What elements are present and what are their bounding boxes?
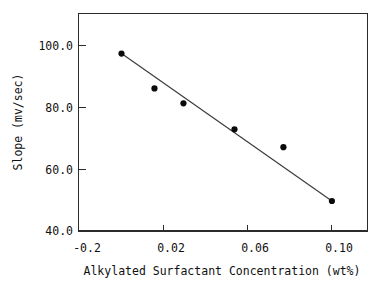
y-tick-label-60: 60.0	[45, 163, 73, 177]
x-tick-label-010: 0.10	[325, 241, 353, 255]
x-axis-title: Alkylated Surfactant Concentration (wt%)	[84, 264, 361, 278]
data-point	[329, 198, 335, 204]
x-tick-label-006: 0.06	[241, 241, 269, 255]
x-tick-label-neg02: -0.2	[73, 241, 101, 255]
x-tick-label-002: 0.02	[157, 241, 185, 255]
data-point	[151, 85, 157, 91]
data-point	[231, 126, 237, 132]
chart-figure: 100.0 80.0 60.0 40.0 -0.2 0.02 0.06 0.10…	[0, 0, 388, 282]
y-tick-label-100: 100.0	[38, 39, 73, 53]
y-tick-label-40: 40.0	[45, 224, 73, 238]
scatter-plot-canvas: 100.0 80.0 60.0 40.0 -0.2 0.02 0.06 0.10…	[0, 0, 388, 282]
data-point	[180, 100, 186, 106]
y-tick-label-80: 80.0	[45, 101, 73, 115]
data-point	[118, 50, 124, 56]
y-axis-title: Slope (mv/sec)	[11, 74, 25, 171]
data-point	[280, 144, 286, 150]
